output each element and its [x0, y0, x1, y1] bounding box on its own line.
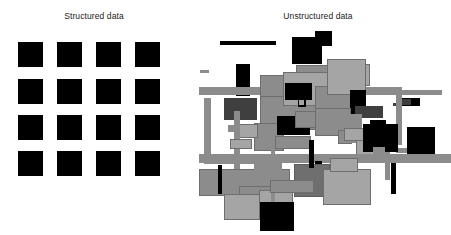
- structured-panel-title: Structured data: [34, 11, 154, 21]
- grid-cell: [57, 151, 82, 176]
- grid-cell: [57, 79, 82, 104]
- unstructured-rect: [323, 169, 371, 205]
- grid-cell: [18, 42, 43, 67]
- grid-cell: [135, 115, 160, 140]
- grid-cell: [18, 79, 43, 104]
- unstructured-rect: [254, 163, 282, 175]
- unstructured-rect: [330, 158, 358, 172]
- unstructured-rect: [407, 127, 435, 154]
- unstructured-rect: [402, 99, 411, 105]
- unstructured-rect: [270, 180, 314, 193]
- grid-cell: [135, 42, 160, 67]
- grid-cell: [18, 151, 43, 176]
- unstructured-rect: [315, 31, 332, 46]
- grid-cell: [135, 151, 160, 176]
- grid-cell: [96, 115, 121, 140]
- figure-canvas: Structured data Unstructured data: [0, 0, 451, 235]
- unstructured-rect: [260, 202, 294, 231]
- unstructured-rect: [373, 147, 385, 155]
- unstructured-rect: [224, 98, 257, 120]
- grid-cell: [96, 42, 121, 67]
- grid-cell: [135, 79, 160, 104]
- grid-cell: [57, 42, 82, 67]
- grid-cell: [57, 115, 82, 140]
- structured-data-grid: [18, 42, 160, 176]
- unstructured-data-field: [195, 28, 451, 230]
- unstructured-rect: [204, 98, 211, 162]
- unstructured-rect: [299, 100, 304, 105]
- unstructured-rect: [230, 139, 252, 149]
- unstructured-rect: [218, 165, 222, 194]
- unstructured-rect: [309, 140, 314, 168]
- unstructured-rect: [391, 163, 396, 194]
- grid-cell: [18, 115, 43, 140]
- grid-cell: [96, 151, 121, 176]
- unstructured-rect: [238, 124, 258, 138]
- unstructured-rect: [385, 155, 451, 162]
- unstructured-rect: [200, 70, 209, 73]
- unstructured-panel-title: Unstructured data: [258, 11, 378, 21]
- unstructured-rect: [220, 41, 276, 45]
- grid-cell: [96, 79, 121, 104]
- unstructured-rect: [285, 83, 312, 100]
- unstructured-rect: [275, 136, 311, 149]
